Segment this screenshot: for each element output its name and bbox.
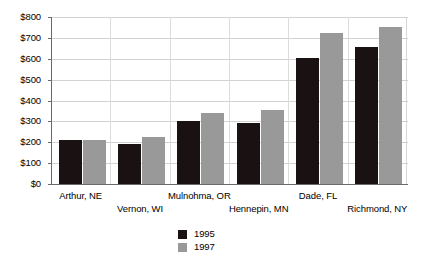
legend-item[interactable]: 1997 xyxy=(178,241,268,253)
bar-1995-vernon-wi xyxy=(118,144,141,184)
y-tick-label: $800 xyxy=(20,12,41,22)
y-tick-label: $200 xyxy=(20,137,41,147)
bar-group xyxy=(118,17,166,184)
bar-1997-richmond-ny xyxy=(379,27,402,184)
plot-wrapper: $800$700$600$500$400$300$200$100$0 Arthu… xyxy=(0,0,430,190)
bar-1995-mulnohma-or xyxy=(177,121,200,184)
y-tick-label: $400 xyxy=(20,96,41,106)
bar-chart: $800$700$600$500$400$300$200$100$0 Arthu… xyxy=(0,0,430,264)
bar-1997-arthur-ne xyxy=(83,140,106,184)
x-axis-label: Mulnohma, OR xyxy=(149,190,249,201)
bar-1997-hennepin-mn xyxy=(261,110,284,184)
legend-item[interactable]: 1995 xyxy=(178,228,268,240)
bar-1995-dade-fl xyxy=(296,58,319,184)
chart-legend: 19951997 xyxy=(178,228,268,254)
x-axis-labels: Arthur, NEVernon, WIMulnohma, ORHennepin… xyxy=(0,188,430,224)
y-tick-label: $500 xyxy=(20,75,41,85)
bar-1995-arthur-ne xyxy=(59,140,82,184)
legend-swatch-icon xyxy=(178,243,187,252)
y-tick-label: $600 xyxy=(20,54,41,64)
y-tickmark xyxy=(48,184,52,185)
y-tick-label: $100 xyxy=(20,158,41,168)
y-axis: $800$700$600$500$400$300$200$100$0 xyxy=(0,10,44,190)
legend-label: 1997 xyxy=(194,241,215,253)
bar-group xyxy=(355,17,403,184)
bars-layer xyxy=(51,17,407,184)
x-axis-label: Richmond, NY xyxy=(327,203,427,214)
x-axis-label: Arthur, NE xyxy=(31,190,131,201)
category-separator xyxy=(348,17,349,184)
bar-group xyxy=(237,17,285,184)
category-separator xyxy=(288,17,289,184)
bar-group xyxy=(59,17,107,184)
x-axis-label: Vernon, WI xyxy=(90,203,190,214)
x-axis-label: Dade, FL xyxy=(268,190,368,201)
bar-1995-hennepin-mn xyxy=(237,123,260,184)
category-separator xyxy=(170,17,171,184)
y-tick-label: $700 xyxy=(20,33,41,43)
bar-group xyxy=(296,17,344,184)
bar-1997-mulnohma-or xyxy=(201,113,224,184)
x-axis-label: Hennepin, MN xyxy=(209,203,309,214)
legend-label: 1995 xyxy=(194,228,215,240)
legend-swatch-icon xyxy=(178,230,187,239)
category-separator xyxy=(110,17,111,184)
bar-group xyxy=(177,17,225,184)
bar-1997-vernon-wi xyxy=(142,137,165,184)
y-tick-label: $300 xyxy=(20,116,41,126)
bar-1995-richmond-ny xyxy=(355,47,378,184)
bar-1997-dade-fl xyxy=(320,33,343,184)
category-separator xyxy=(229,17,230,184)
